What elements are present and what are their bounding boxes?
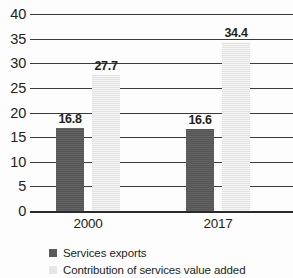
bar bbox=[222, 42, 250, 211]
legend-swatch-icon-services-exports bbox=[49, 249, 57, 257]
gridline bbox=[30, 88, 293, 89]
bar bbox=[92, 75, 120, 211]
legend-label-services-exports: Services exports bbox=[63, 247, 146, 260]
bar-chart-figure: 0510152025303540 20002017 Services expor… bbox=[0, 0, 293, 278]
x-axis-tick-label: 2017 bbox=[203, 217, 232, 231]
y-axis-tick-label: 5 bbox=[0, 179, 26, 194]
x-axis-tick-label: 2000 bbox=[73, 217, 102, 231]
legend-item-services-value-added: Contribution of services value added bbox=[49, 264, 245, 277]
y-axis-tick-label: 30 bbox=[0, 56, 26, 71]
bar-value-label: 16.6 bbox=[188, 114, 211, 127]
legend-swatch-icon-services-value-added bbox=[49, 266, 57, 274]
legend-item-services-exports: Services exports bbox=[49, 247, 245, 260]
legend-label-services-value-added: Contribution of services value added bbox=[63, 264, 245, 277]
gridline bbox=[30, 39, 293, 40]
y-axis-tick-label: 15 bbox=[0, 130, 26, 145]
bar bbox=[56, 128, 84, 211]
y-axis-tick-label: 40 bbox=[0, 7, 26, 22]
chart-legend: Services exports Contribution of service… bbox=[49, 247, 245, 276]
y-axis-tick-label: 25 bbox=[0, 81, 26, 96]
gridline bbox=[30, 63, 293, 64]
gridline bbox=[30, 14, 293, 15]
bar-value-label: 34.4 bbox=[224, 27, 247, 40]
bar bbox=[186, 129, 214, 211]
bar-value-label: 16.8 bbox=[58, 113, 81, 126]
y-axis-tick-label: 20 bbox=[0, 105, 26, 120]
y-axis-tick-label: 35 bbox=[0, 31, 26, 46]
bar-value-label: 27.7 bbox=[94, 60, 117, 73]
x-axis-baseline bbox=[30, 211, 293, 213]
y-axis-tick-label: 10 bbox=[0, 155, 26, 170]
y-axis-tick-label: 0 bbox=[0, 204, 26, 219]
